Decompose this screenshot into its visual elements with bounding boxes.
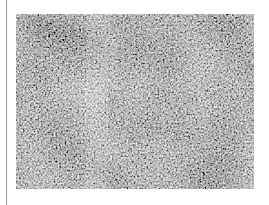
- micrograph-image: [16, 14, 254, 189]
- vertical-divider-line: [6, 0, 7, 205]
- speckle-texture: [16, 14, 254, 189]
- figure-canvas: [0, 0, 269, 205]
